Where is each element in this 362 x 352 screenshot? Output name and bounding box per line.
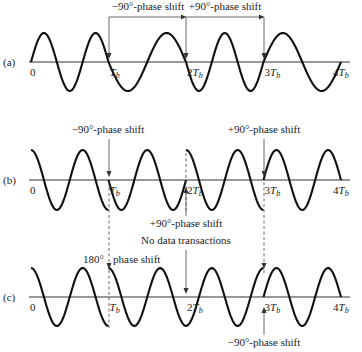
tick-label-c-2: 2Tb [187, 301, 203, 315]
annotation-a-1: −90°-phase shift [112, 0, 185, 12]
tick-label-b-3: 3Tb [265, 184, 281, 198]
annotation-b-2: +90°-phase shift [150, 217, 223, 229]
tick-label-b-0: 0 [30, 184, 36, 196]
annotation-c-1a: 180° [83, 253, 104, 265]
arrowhead-icon [107, 171, 112, 177]
panel-label-a: (a) [3, 56, 16, 69]
tick-label-a-1: Tb [110, 66, 120, 80]
arrowhead-icon [181, 15, 186, 20]
panel-label-b: (b) [3, 174, 16, 187]
tick-label-a-3: 3Tb [265, 66, 281, 80]
annotation-b-3: +90°-phase shift [228, 123, 301, 135]
annotation-c-2: No data transactions [141, 234, 231, 246]
tick-label-a-2: 2Tb [187, 66, 203, 80]
tick-label-c-0: 0 [30, 301, 36, 313]
axes-layer [29, 62, 350, 297]
annotation-b-1: −90°-phase shift [72, 123, 145, 135]
annotation-c-1b: phase shift [113, 253, 160, 265]
tick-label-c-1: Tb [110, 301, 120, 315]
annotation-a-2: +90°-phase shift [189, 0, 262, 12]
arrowhead-icon [259, 15, 264, 20]
panel-label-c: (c) [3, 291, 16, 304]
phase-shift-diagram: −90°-phase shift +90°-phase shift −90°-p… [0, 0, 362, 352]
tick-label-c-3: 3Tb [265, 301, 281, 315]
arrowhead-icon [184, 288, 189, 294]
tick-label-b-4: 4Tb [333, 184, 349, 198]
annotation-c-3: −90°-phase shift [228, 336, 301, 348]
bracket-a [109, 17, 264, 56]
tick-label-b-1: Tb [110, 184, 120, 198]
tick-label-c-4: 4Tb [333, 301, 349, 315]
tick-label-a-4: 4Tb [333, 66, 349, 80]
tick-label-a-0: 0 [30, 66, 36, 78]
